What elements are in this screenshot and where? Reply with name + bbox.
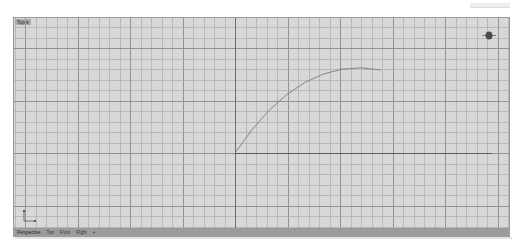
top-right-toolbar-strip [470, 3, 510, 8]
viewport-title-menu[interactable]: Top ▾ [15, 19, 31, 25]
tab-top[interactable]: Top [45, 229, 56, 237]
viewport-tab-bar: Perspective Top Front Right + [13, 229, 510, 237]
top-viewport[interactable]: Top ▾ [13, 17, 510, 229]
tab-front[interactable]: Front [58, 229, 73, 237]
tab-perspective[interactable]: Perspective [15, 229, 43, 237]
construction-grid [14, 18, 510, 229]
navigation-gumball-icon[interactable] [482, 31, 496, 40]
world-axes-icon [21, 208, 39, 224]
tab-bar-shadow [15, 237, 512, 239]
add-viewport-tab-button[interactable]: + [91, 229, 98, 237]
tab-right[interactable]: Right [74, 229, 89, 237]
